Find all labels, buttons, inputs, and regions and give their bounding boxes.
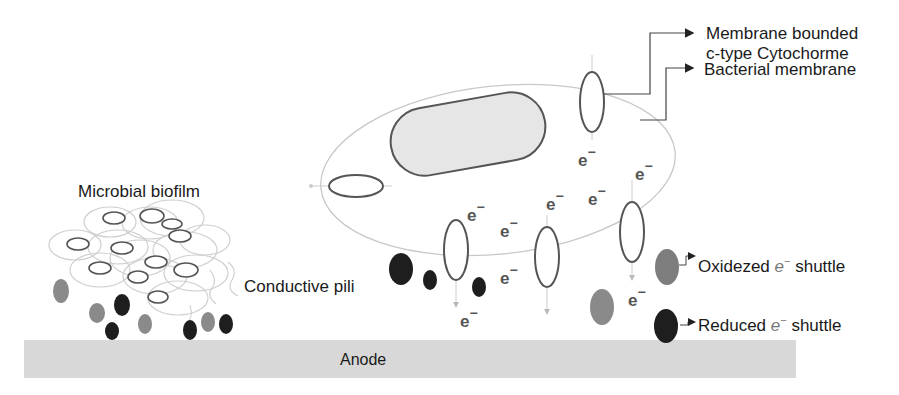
cytochrome-3 <box>620 180 644 278</box>
biofilm-label: Microbial biofilm <box>78 182 200 202</box>
electron-label: e− <box>635 160 653 185</box>
electron-label: e− <box>578 146 596 171</box>
cytochrome-top <box>580 55 604 140</box>
electron-label: e− <box>467 201 485 226</box>
anode-label: Anode <box>340 351 386 369</box>
electron-label: e− <box>588 185 606 210</box>
biofilm-cells <box>49 200 238 325</box>
anode-electrode <box>24 340 796 378</box>
reduced-shuttle-legend <box>654 309 678 343</box>
membrane-label: Bacterial membrane <box>704 60 856 80</box>
cytochrome-label-line1: Membrane bounded <box>706 24 858 44</box>
electron-label: e− <box>546 190 564 215</box>
cytochrome-callout <box>604 33 692 94</box>
reduced-shuttle <box>389 253 413 285</box>
reduced-shuttle-label: Reduced e− shuttle <box>698 314 842 336</box>
electron-label: e− <box>628 286 646 311</box>
pili-label: Conductive pili <box>244 277 355 297</box>
reduced-shuttle <box>423 270 437 290</box>
oxidized-shuttle-legend <box>655 249 679 285</box>
biofilm-shuttles <box>53 279 233 340</box>
electron-label: e− <box>460 307 478 332</box>
electron-label: e− <box>500 217 518 242</box>
nucleoid <box>385 87 550 181</box>
electron-label: e− <box>500 264 518 289</box>
cytochrome-1 <box>444 220 468 305</box>
oxidized-shuttle-label: Oxidezed e− shuttle <box>698 255 845 277</box>
reduced-shuttle <box>472 277 486 297</box>
cytochrome-2 <box>535 215 559 312</box>
oxidized-shuttle <box>590 289 614 325</box>
